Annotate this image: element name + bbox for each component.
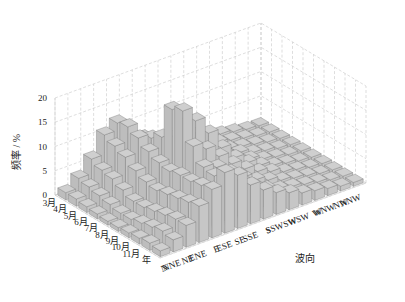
month-tick-label: 年: [142, 254, 151, 265]
bar-face: [225, 169, 235, 233]
z-tick-label: 15: [38, 117, 48, 127]
bar3d-chart: 05101520 3月4月5月6月7月8月9月10月11月年 NNNENEENE…: [0, 0, 405, 302]
bar-face: [199, 203, 209, 243]
grid-line: [55, 23, 366, 98]
direction-tick-label: ENE: [188, 248, 208, 264]
direction-tick-label: ESE: [215, 239, 234, 254]
bar-face: [186, 222, 196, 247]
bar-face: [250, 182, 260, 224]
z-tick-label: 20: [38, 93, 48, 103]
z-axis-ticks: 05101520: [38, 93, 48, 200]
direction-tick-label: SSE: [241, 229, 259, 244]
direction-tick-label: NNW: [339, 192, 363, 209]
z-tick-label: 10: [38, 142, 48, 152]
z-axis-title: 频率 / %: [10, 134, 22, 170]
x-axis-title: 波向: [295, 252, 315, 264]
z-tick-label: 5: [43, 166, 48, 176]
bar-face: [238, 172, 248, 229]
bar-face: [263, 187, 273, 220]
bar-face: [276, 189, 286, 214]
month-tick-label: 11月: [123, 249, 141, 259]
grid-line: [55, 47, 366, 122]
direction-tick-label: WSW: [287, 210, 312, 227]
bar-face: [212, 186, 222, 238]
direction-tick-label: NNE: [161, 257, 182, 273]
